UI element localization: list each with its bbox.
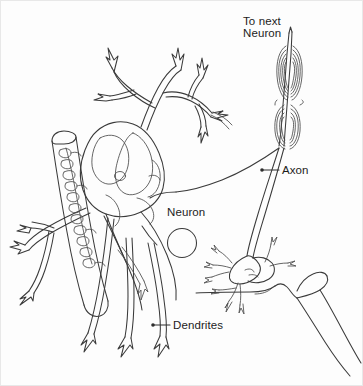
dendrite-tree-left bbox=[10, 208, 90, 305]
label-dendrites: Dendrites bbox=[151, 319, 223, 331]
label-axon: Axon bbox=[260, 164, 308, 176]
dendrite-tree-bottom bbox=[81, 216, 169, 357]
label-neuron: Neuron bbox=[167, 206, 205, 218]
axon-hillock bbox=[150, 148, 279, 198]
axon-label: Axon bbox=[282, 164, 309, 176]
crossing-fiber-with-windings bbox=[52, 131, 108, 316]
nucleus bbox=[168, 229, 197, 258]
neuron-diagram: To next Neuron Axon Neuron Dendrites bbox=[0, 0, 363, 386]
label-to-next-neuron: To next Neuron bbox=[243, 15, 281, 39]
to-next-neuron-label-line2: Neuron bbox=[243, 27, 281, 39]
myelinated-axon-terminal bbox=[275, 27, 304, 149]
dendrite-tree-upper bbox=[94, 48, 232, 143]
to-next-neuron-label-line1: To next bbox=[243, 15, 281, 27]
neuron-label: Neuron bbox=[167, 206, 205, 218]
synaptic-terminals bbox=[204, 237, 296, 314]
dendrites-label: Dendrites bbox=[173, 319, 223, 331]
